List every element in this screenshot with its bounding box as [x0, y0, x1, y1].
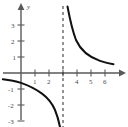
x-tick-label-1: 1: [33, 78, 37, 86]
x-tick-label-5: 5: [89, 78, 93, 86]
y-tick-label-1: 1: [13, 54, 17, 62]
y-tick-label-neg3: -3: [8, 118, 14, 126]
graph-figure: y 1 2 4 5 6 3 2 1 -1 -2 -3: [0, 0, 128, 127]
hyperbola-plot: y 1 2 4 5 6 3 2 1 -1 -2 -3: [0, 0, 128, 127]
y-tick-label-neg2: -2: [8, 102, 14, 110]
x-tick-label-4: 4: [75, 78, 79, 86]
y-axis: [18, 3, 25, 120]
curve-right-branch: [68, 7, 114, 65]
y-tick-label-3: 3: [11, 22, 15, 30]
y-tick-label-2: 2: [11, 38, 15, 46]
y-axis-arrow-icon: [18, 3, 25, 10]
y-axis-label: y: [26, 3, 31, 11]
x-axis-arrow-icon: [119, 70, 126, 77]
x-tick-label-2: 2: [47, 78, 51, 86]
y-tick-label-neg1: -1: [8, 86, 14, 94]
x-tick-label-6: 6: [103, 78, 107, 86]
